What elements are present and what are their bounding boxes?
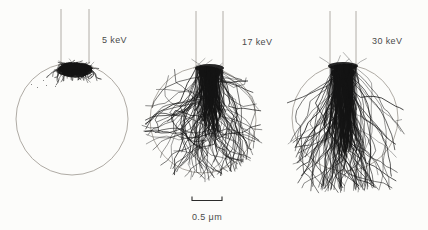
backscatter-trajectory	[320, 57, 333, 66]
electron-trajectories	[142, 58, 262, 181]
electron-trajectories	[287, 53, 404, 193]
backscatter-trajectory	[90, 62, 94, 66]
panel-30kev: 30 keV	[287, 11, 404, 193]
panel-17kev: 17 keV	[142, 11, 272, 182]
stray-speckle	[46, 85, 47, 86]
scale-bar: 0.5 μm	[192, 197, 222, 223]
panel-5kev: 5 keV	[16, 9, 128, 175]
energy-label: 5 keV	[102, 35, 127, 45]
backscatter-trajectory	[355, 59, 366, 67]
energy-label: 30 keV	[372, 36, 402, 46]
figure: 5 keV 17 keV 30 keV 0.5 μm	[0, 0, 428, 230]
stray-trajectory-dash	[396, 120, 403, 122]
stray-speckle	[55, 86, 56, 87]
stray-speckle	[43, 80, 44, 81]
stray-speckle	[31, 84, 32, 85]
scale-bar-label: 0.5 μm	[192, 212, 222, 222]
scale-bar-line	[192, 197, 222, 201]
figure-canvas: 5 keV 17 keV 30 keV 0.5 μm	[0, 0, 428, 230]
stray-speckle	[37, 87, 38, 88]
energy-label: 17 keV	[242, 37, 272, 47]
electron-trajectories	[31, 59, 101, 88]
